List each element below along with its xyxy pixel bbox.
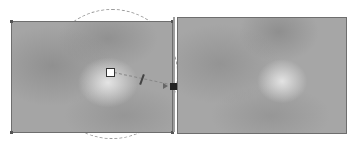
center-handle[interactable] <box>106 68 115 77</box>
end-handle[interactable] <box>170 83 177 90</box>
arrow-icon <box>163 83 168 89</box>
corner-handle[interactable] <box>10 131 13 134</box>
panel-divider <box>173 17 175 132</box>
preview-image-panel <box>177 17 347 134</box>
source-image-panel[interactable] <box>11 21 173 133</box>
corner-handle[interactable] <box>10 20 13 23</box>
